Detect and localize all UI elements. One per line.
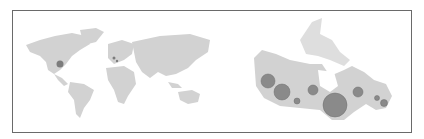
bubble-europe — [113, 57, 116, 60]
bubble-quebec — [353, 87, 363, 97]
bubble-alberta — [274, 84, 290, 100]
bubble-north-america — [57, 61, 64, 68]
bubble-sask-south — [294, 98, 300, 104]
bubble-ns — [381, 100, 388, 107]
bubble-manitoba — [308, 85, 318, 95]
world-map — [26, 28, 210, 118]
bubble-ontario — [323, 93, 347, 117]
bubble-bc-north — [261, 74, 275, 88]
bubble-nb — [375, 96, 380, 101]
maps-canvas — [0, 0, 424, 139]
bubble-europe-2 — [116, 60, 118, 62]
